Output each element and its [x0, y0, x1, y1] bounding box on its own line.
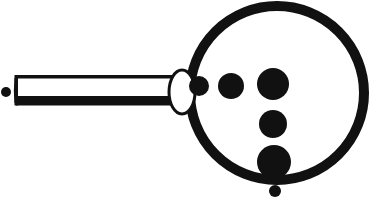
- col-dot-3: [269, 185, 281, 197]
- col-dot-1: [259, 110, 287, 138]
- row-dot-3: [257, 68, 289, 100]
- row-dot-1: [189, 76, 209, 96]
- magnifier-illustration: [0, 0, 386, 204]
- figure-canvas: Magnifying glass with graduated dot scal…: [0, 0, 386, 204]
- row-dot-2: [218, 73, 244, 99]
- handle-tip-dot: [1, 87, 11, 97]
- col-dot-2: [257, 145, 291, 179]
